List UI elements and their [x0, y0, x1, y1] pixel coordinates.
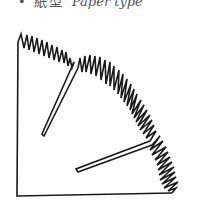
- zigzag-segment-3: [150, 136, 178, 193]
- slit-2: [76, 141, 152, 172]
- left-bottom-edge: [17, 42, 172, 196]
- zigzag-segment-1: [18, 34, 74, 68]
- paper-fan-illustration: [0, 0, 200, 207]
- zigzag-segment-2: [78, 55, 156, 141]
- slit-1: [42, 62, 78, 136]
- paper-outline: [17, 34, 178, 196]
